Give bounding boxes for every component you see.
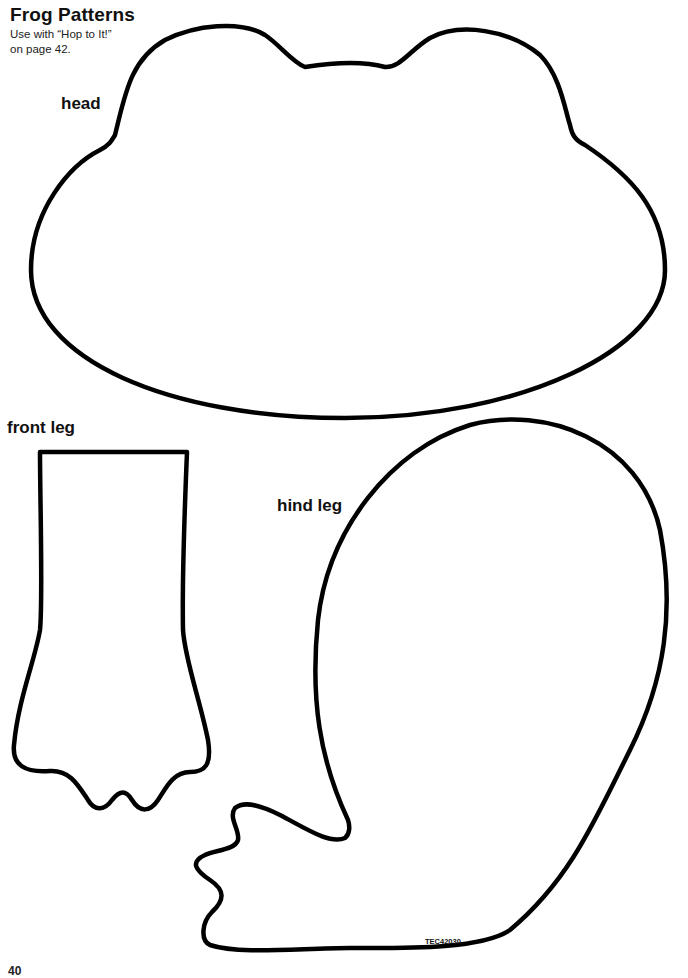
head-label: head [61,94,101,114]
front-leg-label: front leg [7,418,75,438]
product-code: TEC42030 [425,937,461,946]
page-number: 40 [8,964,21,978]
front-leg-pattern-outline [14,452,209,809]
hind-leg-label: hind leg [277,496,342,516]
hind-leg-pattern-outline [196,420,667,951]
head-pattern-outline [31,26,665,418]
